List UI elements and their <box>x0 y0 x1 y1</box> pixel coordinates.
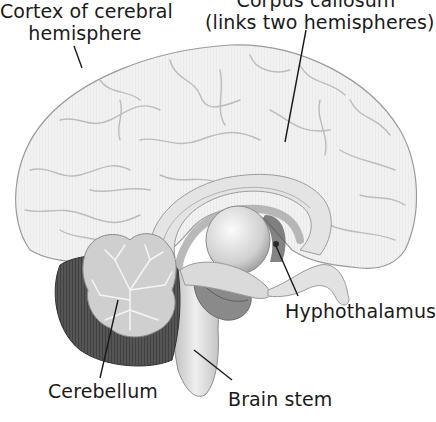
label-cortex-line2: hemisphere <box>0 22 170 44</box>
label-cortex: Cortex of cerebral hemisphere <box>0 0 170 44</box>
label-hypothalamus: Hyphothalamus <box>285 300 426 322</box>
optic-stalk <box>268 265 349 305</box>
label-corpus-callosum-line2: (links two hemispheres) <box>205 11 427 33</box>
leader-cortex <box>74 46 82 68</box>
label-corpus-callosum-line1: Corpus callosum <box>205 0 427 11</box>
label-corpus-callosum: Corpus callosum (links two hemispheres) <box>205 0 427 33</box>
label-cortex-line1: Cortex of cerebral <box>0 0 170 22</box>
label-cerebellum: Cerebellum <box>48 380 158 402</box>
label-brain-stem: Brain stem <box>228 388 338 410</box>
